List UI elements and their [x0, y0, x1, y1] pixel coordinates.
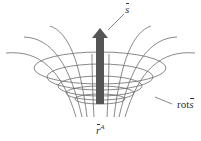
rot-leader-line [155, 97, 172, 104]
vector-arrow [92, 28, 108, 104]
funnel-field-diagram [0, 0, 201, 141]
label-vector-r-a: rA [96, 124, 105, 136]
label-vector-s: s [125, 4, 129, 15]
label-rot-s: rots [177, 99, 194, 110]
vector-r-text: r [96, 125, 100, 136]
rot-vector-s-text: s [189, 99, 193, 110]
vector-s-text: s [125, 4, 129, 15]
s-leader-line [108, 14, 124, 30]
superscript-a: A [100, 123, 104, 131]
rot-text: rot [177, 98, 189, 110]
